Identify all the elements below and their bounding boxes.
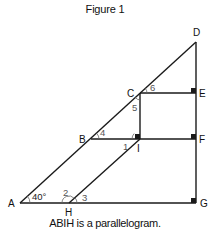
angle-arc-4 [97, 134, 99, 139]
right-angle-marker-E [191, 88, 196, 93]
angle-label-6: 6 [150, 82, 155, 93]
point-label-C: C [127, 88, 134, 99]
point-label-I: I [137, 143, 140, 154]
angle-arc-5 [135, 97, 140, 100]
point-label-D: D [193, 27, 200, 38]
angle-arc-A [27, 196, 30, 203]
angle-label-3: 3 [82, 192, 87, 203]
angle-label-4: 4 [100, 127, 105, 138]
right-angle-marker-G [191, 198, 196, 203]
figure-caption: ABIH is a parallelogram. [0, 217, 210, 229]
angle-arc-3 [75, 198, 77, 203]
angle-label-1: 1 [123, 141, 128, 152]
right-angle-marker-F [191, 134, 196, 139]
angle-label-5: 5 [132, 102, 137, 113]
point-label-E: E [199, 88, 206, 99]
segment-AD [20, 42, 196, 203]
angle-label-40: 40° [32, 191, 47, 202]
right-angle-marker-I [135, 134, 140, 139]
angle-arc-1 [132, 134, 134, 139]
angle-label-2: 2 [63, 187, 68, 198]
geometry-diagram: D C E B I F A H G 40° 2 3 4 1 5 6 [0, 0, 210, 238]
point-label-A: A [8, 198, 15, 209]
angle-arc-6 [145, 88, 147, 93]
point-label-F: F [199, 134, 205, 145]
point-label-B: B [79, 134, 86, 145]
point-label-G: G [200, 198, 208, 209]
